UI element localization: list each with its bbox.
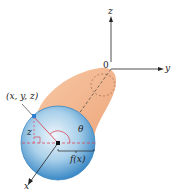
- origin-label: 0: [103, 61, 109, 70]
- y-axis-label: y: [165, 64, 170, 73]
- center-point: [56, 141, 60, 145]
- point-leader: [22, 104, 33, 116]
- y-arrow-icon: [158, 67, 164, 71]
- height-label: z: [27, 128, 32, 137]
- point-label: (x, y, z): [6, 92, 38, 101]
- angle-label: θ: [78, 125, 83, 134]
- point-marker: [32, 114, 36, 118]
- z-arrow-icon: [109, 16, 113, 22]
- x-axis-label: x: [24, 182, 29, 191]
- radius-label: f(x): [70, 155, 85, 164]
- z-axis-label: z: [108, 7, 113, 16]
